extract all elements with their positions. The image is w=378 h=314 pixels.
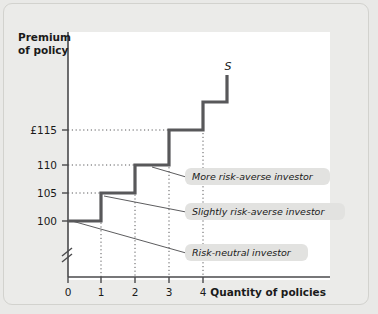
- y-tick-label-115: £115: [30, 124, 57, 136]
- annotation-slightly-risk-averse: Slightly risk-averse investor: [185, 203, 345, 220]
- x-tick-label-1: 1: [98, 286, 105, 298]
- y-axis-title-line2: of policy: [18, 44, 69, 56]
- figure-container: £115 110 105 100 0 1 2 3 4 Premium of po…: [0, 0, 378, 314]
- annotation-risk-neutral: Risk-neutral investor: [185, 244, 308, 261]
- x-tick-label-4: 4: [200, 286, 207, 298]
- annotation-risk-neutral-text: Risk-neutral investor: [192, 247, 292, 258]
- annotation-slightly-risk-averse-text: Slightly risk-averse investor: [192, 206, 325, 217]
- curve-label-S: S: [225, 60, 232, 73]
- x-axis-title: Quantity of policies: [210, 286, 326, 298]
- chart-svg: £115 110 105 100 0 1 2 3 4 Premium of po…: [0, 0, 378, 314]
- x-tick-label-0: 0: [65, 286, 72, 298]
- y-axis-title-line1: Premium: [18, 31, 71, 43]
- y-tick-label-105: 105: [37, 187, 57, 199]
- x-tick-label-3: 3: [166, 286, 173, 298]
- annotation-more-risk-averse-text: More risk-averse investor: [192, 171, 314, 182]
- y-axis-ticks: [62, 130, 68, 221]
- y-tick-label-100: 100: [37, 215, 57, 227]
- annotation-more-risk-averse: More risk-averse investor: [185, 168, 330, 185]
- x-tick-label-2: 2: [132, 286, 139, 298]
- y-tick-label-110: 110: [37, 159, 57, 171]
- plot-background: [68, 32, 330, 280]
